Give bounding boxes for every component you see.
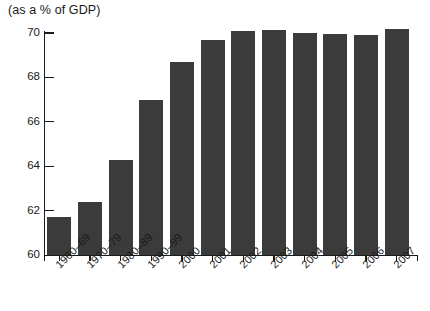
x-axis-tick-label: 2005 (329, 244, 355, 270)
x-axis-tick-label: 2004 (299, 244, 325, 270)
x-axis-tick-label: 2007 (391, 244, 417, 270)
x-axis-tick-label: 2006 (360, 244, 386, 270)
bar-chart: (as a % of GDP) 606264666870 1960–691970… (0, 0, 430, 311)
x-axis-tick-label: 2002 (237, 244, 263, 270)
x-axis-labels: 1960–691970–791980–891990–99200020012002… (0, 0, 430, 311)
x-axis-tick-label: 2000 (176, 244, 202, 270)
x-axis-tick-label: 2001 (207, 244, 233, 270)
x-axis-tick-label: 2003 (268, 244, 294, 270)
